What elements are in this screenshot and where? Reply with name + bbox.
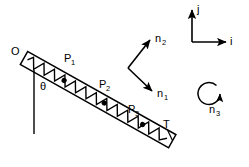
beam-outline	[20, 51, 176, 147]
axis-label-i: i	[230, 35, 232, 47]
svg-text:2: 2	[106, 84, 110, 93]
rotation-indicator-group	[198, 83, 220, 105]
axis-label-j: j	[196, 3, 199, 15]
axis-n1-arrow	[128, 68, 152, 91]
axis-label-n1: n 1	[157, 87, 168, 102]
axis-label-n2: n 2	[155, 32, 166, 47]
spring-zigzag	[25, 55, 170, 142]
rotation-arc-icon	[198, 83, 220, 105]
svg-text:1: 1	[71, 58, 75, 67]
svg-text:n: n	[155, 32, 161, 44]
mass-label-p3: P 3	[128, 103, 139, 118]
svg-text:n: n	[209, 103, 215, 115]
mass-label-p2: P 2	[99, 78, 110, 93]
rotation-label-n3: n 3	[209, 103, 220, 118]
figure-canvas: O θ T P 1 P 2 P 3 n 2 n 1	[0, 0, 249, 167]
svg-text:3: 3	[216, 109, 220, 118]
svg-text:1: 1	[164, 93, 168, 102]
axis-n2-arrow	[128, 40, 150, 68]
body-frame-axes	[128, 40, 152, 91]
diagram-svg: O θ T P 1 P 2 P 3 n 2 n 1	[0, 0, 249, 167]
mass-label-p1: P 1	[64, 52, 75, 67]
svg-text:2: 2	[162, 38, 166, 47]
svg-text:3: 3	[135, 109, 139, 118]
tip-label: T	[163, 118, 170, 130]
pivot-label: O	[11, 45, 20, 57]
mass-point-p1	[61, 77, 68, 84]
svg-text:n: n	[157, 87, 163, 99]
beam-group	[20, 51, 176, 147]
angle-theta-label: θ	[40, 80, 46, 92]
